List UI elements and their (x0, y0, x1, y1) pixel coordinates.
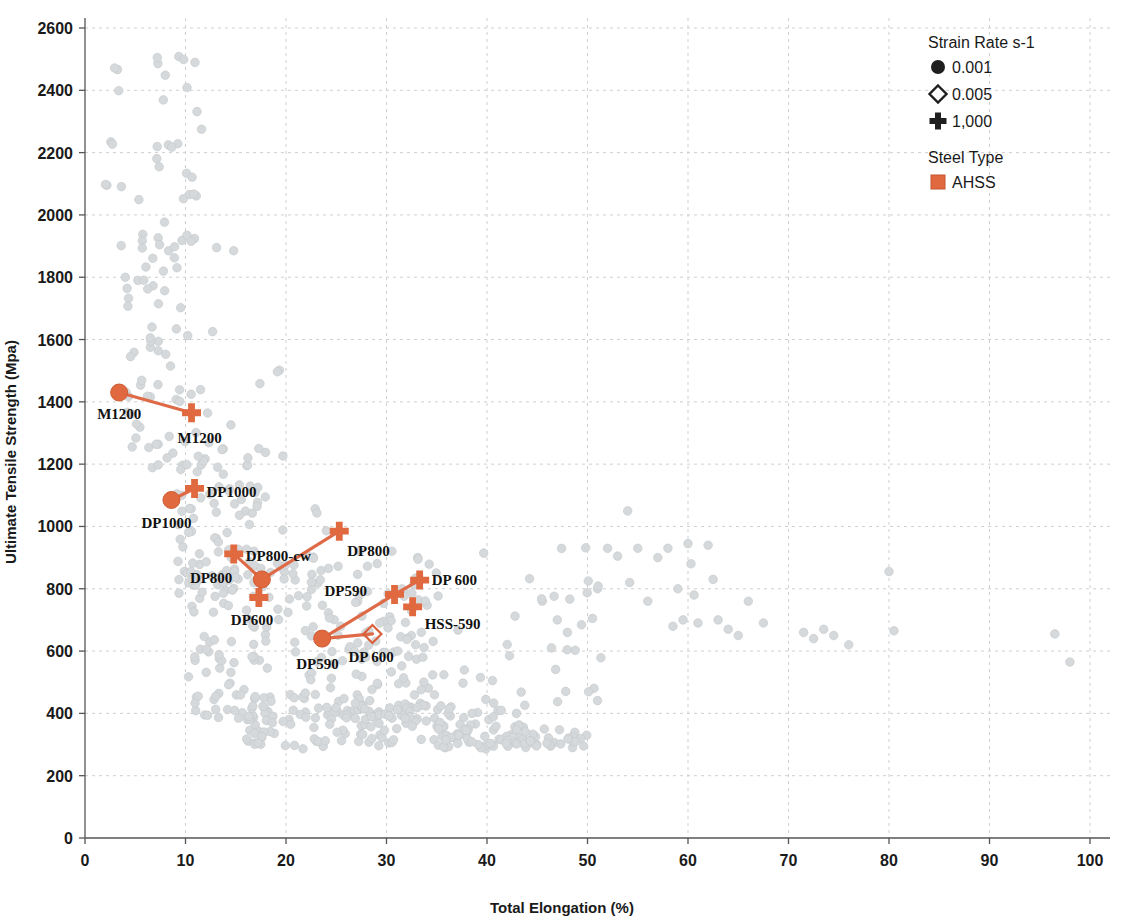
background-point (414, 555, 423, 564)
background-point (301, 689, 310, 698)
legend-entry-1-000: 1,000 (952, 113, 992, 130)
background-point (160, 286, 169, 295)
background-point (132, 434, 141, 443)
background-point (476, 673, 485, 682)
highlight-point-circle[interactable] (253, 571, 270, 588)
background-point (183, 460, 192, 469)
background-point (550, 592, 559, 601)
background-point (324, 564, 333, 573)
background-point (172, 325, 181, 334)
background-point (170, 243, 179, 252)
background-point (203, 711, 212, 720)
background-point (310, 723, 319, 732)
background-point (885, 567, 894, 576)
background-point (429, 637, 438, 646)
highlight-point-plus[interactable] (330, 522, 349, 541)
background-point (340, 694, 349, 703)
background-point (290, 694, 299, 703)
background-point (489, 699, 498, 708)
background-point (290, 638, 299, 647)
background-point (227, 421, 236, 430)
background-point (176, 535, 185, 544)
background-point (566, 595, 575, 604)
background-point (301, 626, 310, 635)
background-point (393, 706, 402, 715)
background-point (175, 589, 184, 598)
background-point (187, 390, 196, 399)
background-point (227, 668, 236, 677)
background-point (191, 58, 200, 67)
background-point (167, 143, 176, 152)
background-point (375, 742, 384, 751)
background-point (623, 507, 632, 516)
background-point (332, 703, 341, 712)
background-point (197, 125, 206, 134)
highlight-point-plus[interactable] (249, 588, 268, 607)
background-point (176, 303, 185, 312)
background-point (274, 605, 283, 614)
background-point (694, 619, 703, 628)
y-tick-label: 1200 (37, 456, 73, 473)
background-point (724, 625, 733, 634)
background-point (234, 714, 243, 723)
background-point (302, 713, 311, 722)
highlight-point-circle[interactable] (314, 630, 331, 647)
background-point (279, 452, 288, 461)
background-point (242, 735, 251, 744)
y-tick-label: 0 (64, 830, 73, 847)
background-point (481, 732, 490, 741)
background-point (799, 628, 808, 637)
background-point (146, 334, 155, 343)
background-point (155, 240, 164, 249)
background-point (434, 725, 443, 734)
background-point (175, 397, 184, 406)
background-point (334, 562, 343, 571)
background-point (245, 520, 254, 529)
background-point (479, 549, 488, 558)
background-point (521, 701, 530, 710)
background-point (318, 601, 327, 610)
highlight-point-plus[interactable] (182, 403, 201, 422)
background-point (597, 653, 606, 662)
background-point (249, 640, 258, 649)
background-point (124, 302, 133, 311)
background-point (425, 560, 434, 569)
highlight-point-circle[interactable] (163, 491, 180, 508)
background-point (351, 699, 360, 708)
background-point (160, 218, 169, 227)
background-point (517, 688, 526, 697)
background-point (486, 739, 495, 748)
background-point (224, 680, 233, 689)
background-point (211, 592, 220, 601)
background-point (184, 673, 193, 682)
background-point (229, 246, 238, 255)
background-point (259, 702, 268, 711)
background-point (468, 709, 477, 718)
background-point (375, 619, 384, 628)
background-point (203, 409, 212, 418)
chart-legend: Strain Rate s-10.0010.0051,000Steel Type… (928, 34, 1035, 191)
background-point (261, 493, 270, 502)
background-point (890, 627, 899, 636)
background-point (154, 300, 163, 309)
background-point (421, 597, 430, 606)
background-point (460, 666, 469, 675)
background-point (368, 734, 377, 743)
background-point (299, 745, 308, 754)
background-point (230, 706, 239, 715)
background-point (571, 646, 580, 655)
background-point (159, 267, 168, 276)
point-label-dp1000: DP1000 (141, 515, 191, 531)
background-point (190, 190, 199, 199)
background-point (704, 541, 713, 550)
background-point (526, 737, 535, 746)
background-point (101, 180, 110, 189)
y-tick-label: 2400 (37, 82, 73, 99)
background-point (420, 643, 429, 652)
highlight-point-circle[interactable] (111, 384, 128, 401)
background-point (669, 622, 678, 631)
background-point (690, 591, 699, 600)
background-point (512, 726, 521, 735)
point-label-dp800: DP800 (190, 570, 233, 586)
background-point (211, 705, 220, 714)
